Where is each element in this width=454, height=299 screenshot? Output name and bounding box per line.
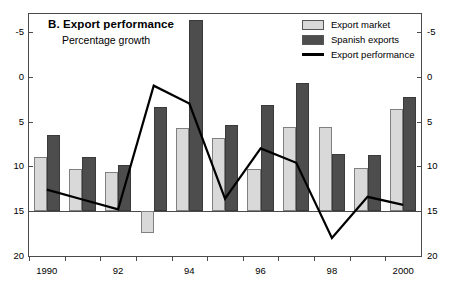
export-performance-polyline — [47, 86, 403, 238]
export-performance-chart: B. Export performance Percentage growth … — [0, 0, 454, 299]
export-performance-line — [0, 0, 454, 299]
